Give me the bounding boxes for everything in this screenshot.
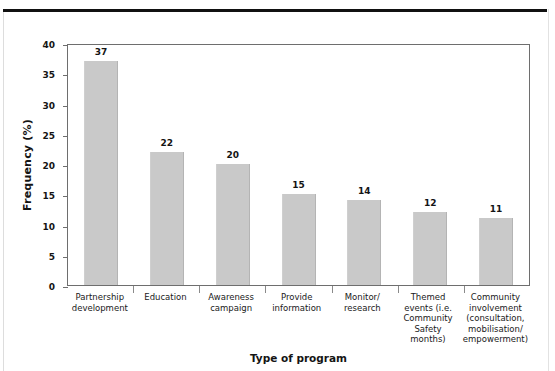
bar-slot: 14 — [331, 45, 397, 285]
x-axis-category-label: Provideinformation — [264, 292, 330, 345]
x-axis-category-label: Monitor/research — [330, 292, 396, 345]
y-axis-tick-label: 20 — [42, 161, 55, 171]
plot-area: 0510152025303540 37222015141211 — [67, 44, 530, 286]
bar-slot: 11 — [463, 45, 529, 285]
bar[interactable]: 12 — [413, 212, 447, 285]
bar[interactable]: 15 — [282, 194, 316, 285]
y-axis-tick-label: 35 — [42, 70, 55, 80]
bar-value-label: 12 — [424, 198, 437, 208]
scanned-page: Frequency (%) 0510152025303540 372220151… — [0, 0, 555, 371]
bar-chart: Frequency (%) 0510152025303540 372220151… — [0, 0, 555, 371]
y-axis-tick-label: 40 — [42, 40, 55, 50]
y-axis-tick-label: 30 — [42, 101, 55, 111]
bar[interactable]: 20 — [216, 164, 250, 285]
bar-value-label: 22 — [161, 138, 174, 148]
y-axis-tick-label: 10 — [42, 222, 55, 232]
bar-slot: 22 — [134, 45, 200, 285]
x-axis-category-label: Partnershipdevelopment — [67, 292, 133, 345]
bar[interactable]: 22 — [150, 152, 184, 285]
bar-slot: 15 — [266, 45, 332, 285]
bar-value-label: 15 — [292, 180, 305, 190]
bar[interactable]: 37 — [84, 61, 118, 285]
x-axis-category-label: Themedevents (i.e.CommunitySafetymonths) — [395, 292, 461, 345]
bar-slot: 20 — [200, 45, 266, 285]
bar-slot: 12 — [397, 45, 463, 285]
x-axis-category-label: Awarenesscampaign — [198, 292, 264, 345]
x-axis-title: Type of program — [67, 352, 530, 366]
bar[interactable]: 11 — [479, 218, 513, 285]
bar-slot: 37 — [68, 45, 134, 285]
y-axis-title: Frequency (%) — [18, 44, 36, 286]
bar-series: 37222015141211 — [68, 45, 529, 285]
bar-value-label: 20 — [226, 150, 239, 160]
x-axis-tick-labels: PartnershipdevelopmentEducationAwareness… — [67, 292, 530, 345]
bar-value-label: 37 — [95, 47, 108, 57]
y-axis-tick-label: 25 — [42, 131, 55, 141]
y-axis-tick-label: 0 — [49, 282, 55, 292]
bar-value-label: 11 — [490, 204, 503, 214]
x-axis-category-label: Communityinvolvement(consultation,mobili… — [461, 292, 530, 345]
y-axis-tick-label: 5 — [49, 252, 55, 262]
bar-value-label: 14 — [358, 186, 371, 196]
bar[interactable]: 14 — [347, 200, 381, 285]
y-axis-tick-label: 15 — [42, 191, 55, 201]
x-axis-category-label: Education — [133, 292, 199, 345]
